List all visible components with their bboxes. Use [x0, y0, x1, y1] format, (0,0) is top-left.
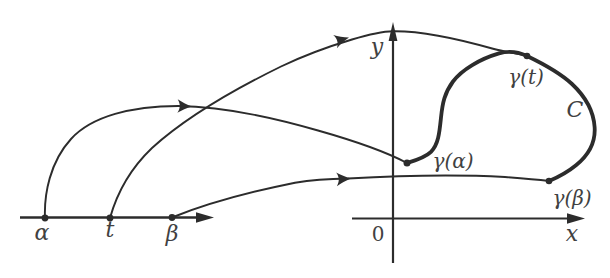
- label-gamma-alpha: γ(α): [432, 149, 473, 173]
- map-curve-beta: [172, 176, 549, 218]
- label-gamma-beta: γ(β): [552, 186, 591, 210]
- label-curve-C: C: [567, 97, 584, 122]
- point-gamma-t-dot: [524, 53, 531, 60]
- parametric-curve-diagram: α t β y x 0 γ(t) γ(α) γ(β) C: [0, 0, 610, 278]
- parameter-line-arrowhead-icon: [196, 212, 214, 222]
- label-x-axis: x: [566, 221, 579, 246]
- point-beta-dot: [169, 214, 176, 221]
- labels: α t β y x 0 γ(t) γ(α) γ(β) C: [35, 34, 592, 246]
- label-alpha: α: [35, 220, 50, 245]
- label-y-axis: y: [370, 34, 384, 59]
- map-curve-alpha: [45, 106, 406, 218]
- figure-canvas: α t β y x 0 γ(t) γ(α) γ(β) C: [0, 0, 610, 278]
- label-origin: 0: [372, 222, 385, 246]
- map-curve-t: [110, 31, 527, 218]
- label-beta: β: [165, 221, 179, 246]
- label-gamma-t: γ(t): [508, 65, 544, 89]
- label-t: t: [106, 217, 115, 242]
- point-gamma-alpha-dot: [404, 160, 411, 167]
- point-gamma-beta-dot: [546, 178, 553, 185]
